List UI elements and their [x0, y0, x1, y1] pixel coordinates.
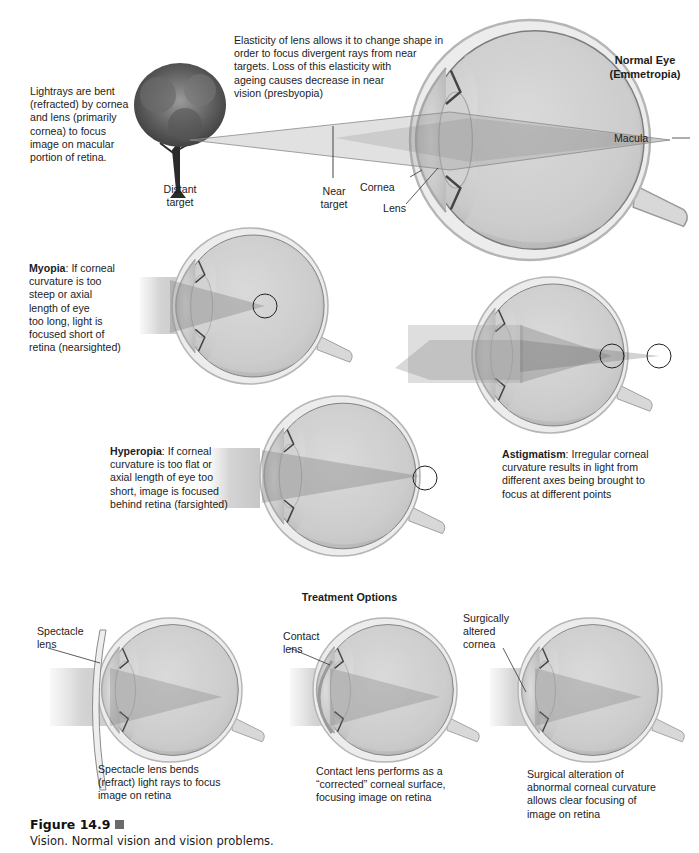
lens-label: Lens: [383, 202, 406, 215]
text-line: Contact lens performs as a: [316, 765, 486, 778]
figure-caption: Vision. Normal vision and vision problem…: [30, 834, 274, 848]
hyperopia-description: Hyperopia: If corneal curvature is too f…: [110, 445, 270, 511]
contact-lens-caption: Contact lens performs as a “corrected” c…: [316, 765, 486, 805]
text-line: Surgical alteration of: [527, 768, 697, 781]
text-line: behind retina (farsighted): [110, 498, 270, 511]
text-line: short, image is focused: [110, 485, 270, 498]
figure-number: Figure 14.9: [30, 817, 124, 832]
text-line: ageing causes decrease in near: [234, 74, 474, 87]
spectacle-lens-label: Spectacle lens: [37, 625, 84, 651]
normal-eye-title: Normal Eye (Emmetropia): [600, 53, 690, 81]
title-line: Normal Eye: [600, 53, 690, 67]
hyperopia-term: Hyperopia: [110, 445, 162, 457]
spectacle-lens-caption: Spectacle lens bends (refract) light ray…: [98, 763, 268, 803]
label-line: target: [150, 196, 210, 209]
text-line: length of eye: [29, 302, 159, 315]
figure-number-text: Figure 14.9: [30, 817, 111, 832]
label-line: cornea: [463, 638, 509, 651]
text-line: order to focus divergent rays from near: [234, 47, 474, 60]
contact-lens-label: Contact lens: [283, 630, 320, 656]
label-line: lens: [283, 643, 320, 656]
text-line: too long, light is: [29, 315, 159, 328]
text-line: focus at different points: [502, 488, 692, 501]
text-line: (refract) light rays to focus: [98, 776, 268, 789]
figure-square-icon: [115, 820, 124, 829]
text-line: vision (presbyopia): [234, 87, 474, 100]
text-line: targets. Loss of this elasticity with: [234, 60, 474, 73]
text-line: allows clear focusing of: [527, 794, 697, 807]
label-line: Surgically: [463, 612, 509, 625]
text-line: image on retina: [98, 789, 268, 802]
label-line: lens: [37, 638, 84, 651]
text-line: axial length of eye too: [110, 471, 270, 484]
astigmatism-description: Astigmatism: Irregular corneal curvature…: [502, 448, 692, 501]
text-line: Spectacle lens bends: [98, 763, 268, 776]
macula-label: Macula: [614, 132, 648, 145]
text-line: focused short of: [29, 328, 159, 341]
label-line: altered: [463, 625, 509, 638]
text-line: steep or axial: [29, 288, 159, 301]
text-line: : If corneal: [162, 445, 211, 457]
label-line: Near: [314, 185, 354, 198]
text-line: cornea) to focus: [30, 125, 170, 138]
text-line: different axes being brought to: [502, 474, 692, 487]
text-line: curvature is too flat or: [110, 458, 270, 471]
text-line: “corrected” corneal surface,: [316, 778, 486, 791]
text-line: (refracted) by cornea: [30, 98, 170, 111]
text-line: image on macular: [30, 138, 170, 151]
label-line: Spectacle: [37, 625, 84, 638]
myopia-eye-illustration: [140, 228, 352, 384]
myopia-description: Myopia: If corneal curvature is too stee…: [29, 262, 159, 354]
cornea-label: Cornea: [360, 181, 395, 194]
text-line: abnormal corneal curvature: [527, 781, 697, 794]
text-line: retina (nearsighted): [29, 341, 159, 354]
surgically-altered-cornea-illustration: [490, 618, 684, 762]
label-line: Distant: [150, 183, 210, 196]
text-line: curvature results in light from: [502, 461, 692, 474]
surgically-altered-cornea-label: Surgically altered cornea: [463, 612, 509, 651]
label-line: Contact: [283, 630, 320, 643]
surgical-alteration-caption: Surgical alteration of abnormal corneal …: [527, 768, 697, 821]
text-line: and lens (primarily: [30, 111, 170, 124]
normal-eye-description: Lightrays are bent (refracted) by cornea…: [30, 85, 170, 164]
treatment-options-heading: Treatment Options: [0, 590, 699, 604]
text-line: Lightrays are bent: [30, 85, 170, 98]
text-line: curvature is too: [29, 275, 159, 288]
distant-target-label: Distant target: [150, 183, 210, 209]
text-line: image on retina: [527, 808, 697, 821]
astigmatism-term: Astigmatism: [502, 448, 566, 460]
myopia-term: Myopia: [29, 262, 66, 274]
near-target-label: Near target: [314, 185, 354, 211]
text-line: focusing image on retina: [316, 791, 486, 804]
title-line: (Emmetropia): [600, 67, 690, 81]
text-line: Elasticity of lens allows it to change s…: [234, 34, 474, 47]
astigmatism-eye-illustration: [395, 277, 671, 433]
text-line: portion of retina.: [30, 151, 170, 164]
label-line: target: [314, 198, 354, 211]
text-line: : If corneal: [66, 262, 115, 274]
elasticity-description: Elasticity of lens allows it to change s…: [234, 34, 474, 100]
text-line: : Irregular corneal: [566, 448, 649, 460]
